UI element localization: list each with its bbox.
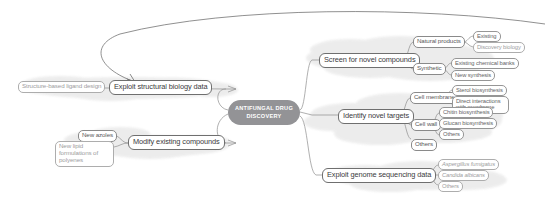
branch-exploit-structural-biology[interactable]: Exploit structural biology data	[109, 80, 212, 95]
branch-screen-for-novel-compounds[interactable]: Screen for novel compounds	[319, 53, 420, 68]
node-cell-wall[interactable]: Cell wall	[411, 119, 441, 131]
node-discovery-biology[interactable]: Discovery biology	[473, 42, 525, 53]
node-natural-products[interactable]: Natural products	[413, 36, 465, 48]
node-sterol-biosynthesis[interactable]: Sterol biosynthesis	[452, 85, 507, 96]
central-topic-line2: DISCOVERY	[235, 113, 293, 121]
node-candida-albicans[interactable]: Candida albicans	[438, 170, 489, 181]
central-topic-line1: ANTIFUNGAL DRUG	[235, 105, 293, 113]
node-new-lipid-formulations-of-polyenes[interactable]: New lipid formulations of polyenes	[55, 141, 114, 167]
node-new-azoles[interactable]: New azoles	[78, 130, 117, 142]
node-genome-others[interactable]: Others	[438, 181, 463, 192]
branch-modify-existing-compounds[interactable]: Modify existing compounds	[128, 135, 225, 150]
node-structure-based-ligand-design[interactable]: Structure-based ligand design	[18, 81, 105, 93]
node-new-synthesis[interactable]: New synthesis	[451, 70, 495, 81]
node-existing[interactable]: Existing	[473, 31, 501, 42]
node-glucan-biosynthesis[interactable]: Glucan biosynthesis	[439, 118, 497, 129]
node-aspergillus-fumigatus[interactable]: Aspergillus fumigatus	[438, 159, 499, 170]
mindmap-canvas: ANTIFUNGAL DRUG DISCOVERY Exploit struct…	[0, 0, 545, 205]
node-existing-chemical-banks[interactable]: Existing chemical banks	[451, 58, 519, 69]
node-cell-wall-others[interactable]: Others	[439, 129, 464, 140]
branch-identify-novel-targets[interactable]: Identify novel targets	[338, 109, 414, 124]
branch-exploit-genome-sequencing-data[interactable]: Exploit genome sequencing data	[322, 168, 436, 183]
node-chitin-biosynthesis[interactable]: Chitin biosynthesis	[439, 107, 493, 118]
node-targets-others[interactable]: Others	[411, 139, 437, 151]
node-synthetic[interactable]: Synthetic	[413, 63, 446, 75]
central-topic[interactable]: ANTIFUNGAL DRUG DISCOVERY	[228, 100, 300, 125]
